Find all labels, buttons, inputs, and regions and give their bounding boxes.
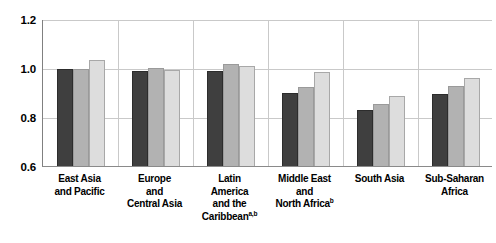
footnote-marker: b bbox=[330, 197, 334, 204]
bar-group bbox=[418, 20, 493, 166]
x-tick-label: Sub-SaharanAfrica bbox=[417, 173, 492, 198]
x-tick-label-line: Caribbeana,b bbox=[192, 211, 267, 224]
x-tick-label: EuropeandCentral Asia bbox=[117, 173, 192, 211]
x-tick-label-line: Middle East bbox=[267, 173, 342, 186]
x-tick-label-line: America bbox=[192, 186, 267, 199]
bar bbox=[73, 69, 89, 166]
y-tick-label: 1.0 bbox=[21, 63, 36, 75]
x-tick-label-line: Africa bbox=[417, 186, 492, 199]
footnote-marker: a,b bbox=[249, 209, 258, 216]
bar bbox=[298, 87, 314, 166]
bar bbox=[239, 66, 255, 166]
bar-group bbox=[343, 20, 418, 166]
bar bbox=[282, 93, 298, 167]
bar-chart: 0.60.81.01.2 East Asiaand PacificEuropea… bbox=[0, 0, 496, 243]
bar-group bbox=[268, 20, 343, 166]
bar bbox=[314, 72, 330, 166]
x-tick-label-line: Central Asia bbox=[117, 198, 192, 211]
bar bbox=[389, 96, 405, 166]
bar-group bbox=[193, 20, 268, 166]
x-tick-label-line: East Asia bbox=[42, 173, 117, 186]
x-tick-label-line: and Pacific bbox=[42, 186, 117, 199]
x-tick-label-line: North Africab bbox=[267, 198, 342, 211]
bar bbox=[448, 86, 464, 166]
bar bbox=[89, 60, 105, 166]
x-tick-label: South Asia bbox=[342, 173, 417, 186]
y-tick-label: 0.8 bbox=[21, 112, 36, 124]
bar-group bbox=[43, 20, 118, 166]
y-axis: 0.60.81.01.2 bbox=[0, 0, 42, 243]
x-tick-label-line: Europe bbox=[117, 173, 192, 186]
bar bbox=[148, 68, 164, 166]
bar bbox=[373, 104, 389, 166]
bar bbox=[464, 78, 480, 166]
x-tick-label: East Asiaand Pacific bbox=[42, 173, 117, 198]
bar bbox=[164, 70, 180, 166]
plot-area bbox=[42, 20, 492, 167]
y-tick-label: 0.6 bbox=[21, 161, 36, 173]
bar bbox=[432, 94, 448, 166]
bar bbox=[207, 71, 223, 166]
bar-group bbox=[118, 20, 193, 166]
x-tick-label-line: Sub-Saharan bbox=[417, 173, 492, 186]
bar bbox=[132, 71, 148, 166]
x-tick-label: Middle EastandNorth Africab bbox=[267, 173, 342, 211]
y-tick-label: 1.2 bbox=[21, 14, 36, 26]
bar bbox=[357, 110, 373, 166]
x-tick-label-line: South Asia bbox=[342, 173, 417, 186]
x-tick-label-line: and bbox=[117, 186, 192, 199]
bar bbox=[57, 69, 73, 166]
bar bbox=[223, 64, 239, 166]
plot-inner bbox=[43, 20, 492, 166]
x-tick-label-line: Latin bbox=[192, 173, 267, 186]
x-axis: East Asiaand PacificEuropeandCentral Asi… bbox=[42, 173, 492, 243]
x-tick-label: LatinAmericaand theCaribbeana,b bbox=[192, 173, 267, 223]
